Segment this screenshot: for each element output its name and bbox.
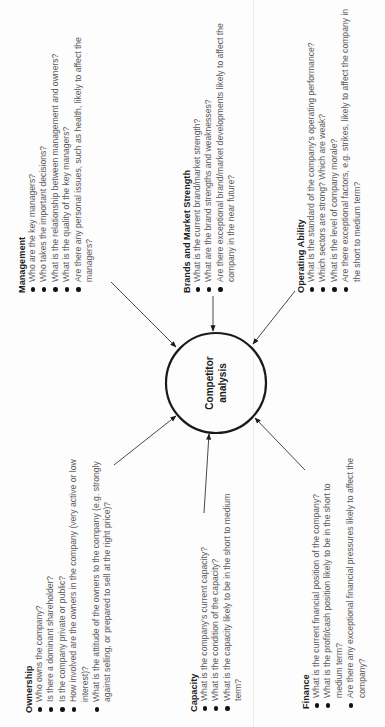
node-ownership: Ownership Who owns the company? Is there… [24,455,114,713]
list-item: Are there exceptional brand/market devel… [215,8,238,293]
list-item: What is the standard of the company's op… [306,8,317,293]
diagram-canvas: Competitor analysis Management Who are t… [0,0,385,727]
list-item: Is there a dominant shareholder? [45,455,56,713]
list-item: What is the relationship between managem… [50,13,61,293]
list-item: Are there any personal issues, such as h… [73,13,96,293]
list-item: Are there any exceptional financial pres… [345,454,368,709]
list-item: Is the company private or public? [57,455,68,713]
list-item: Who are the key managers? [27,13,38,293]
list-item: Who takes the important decisions? [38,13,49,293]
center-node: Competitor analysis [166,333,266,433]
list-item: What is the current financial position o… [311,454,322,709]
center-label-line1: Competitor [203,356,216,409]
list-item: Are there exceptional factors, e.g. stri… [340,8,363,293]
node-finance: Finance What is the current financial po… [301,454,368,709]
list-item: What is the attitude of the owners to th… [91,455,114,713]
rotated-content: Competitor analysis Management Who are t… [0,0,385,727]
list-item: What is the condition of the capacity? [210,472,221,712]
node-title: Management [17,13,27,293]
list-item: What is the quality of the key managers? [61,13,72,293]
center-label-line2: analysis [216,356,229,409]
node-title: Ownership [24,455,34,713]
node-title: Finance [301,454,311,709]
list-item: What is the profit/cash position likely … [322,454,345,709]
node-title: Operating Ability [296,8,306,293]
list-item: What is the capacity likely to be in the… [222,472,245,712]
list-item: Which sectors are strong? Which are weak… [317,8,328,293]
list-item: What is the level of company morale? [329,8,340,293]
list-item: What are the brand strengths and weaknes… [203,8,214,293]
node-brands: Brands and Market Strength What is the c… [182,8,238,293]
node-title: Brands and Market Strength [182,8,192,293]
list-item: What is the company's current capacity? [199,472,210,712]
node-management: Management Who are the key managers? Who… [17,13,95,293]
list-item: What is the current brand/market strengt… [192,8,203,293]
list-item: Who owns the company? [34,455,45,713]
node-title: Capacity [189,472,199,712]
list-item: How involved are the owners in the compa… [68,455,91,713]
node-capacity: Capacity What is the company's current c… [189,472,245,712]
node-operating: Operating Ability What is the standard o… [296,8,363,293]
